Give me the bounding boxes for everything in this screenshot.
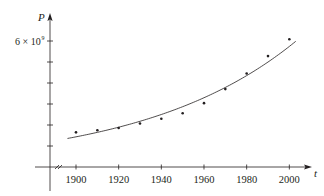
x-tick-label: 1960 (193, 174, 214, 185)
x-tick-label: 1900 (66, 174, 87, 185)
y-axis-arrow-icon (47, 13, 52, 21)
data-point (267, 55, 270, 58)
data-point (245, 72, 248, 75)
model-curve (67, 41, 295, 138)
data-point (181, 112, 184, 115)
x-tick-label: 1920 (108, 174, 129, 185)
exponential-curve (67, 41, 295, 138)
data-point (224, 88, 227, 91)
x-axis-label: t (314, 167, 318, 179)
axis-labels: 190019201940196019802000tP6 × 109 (15, 11, 318, 185)
y-tick-label: 6 × 10 (15, 36, 41, 47)
data-point (117, 127, 120, 130)
population-chart: 190019201940196019802000tP6 × 109 (0, 0, 324, 196)
data-point (75, 131, 78, 134)
y-axis-label: P (37, 11, 45, 23)
data-point (96, 129, 99, 132)
data-point (203, 102, 206, 105)
x-tick-label: 1940 (151, 174, 172, 185)
data-point (139, 122, 142, 125)
y-tick-label-exponent: 9 (42, 35, 45, 41)
x-tick-label: 1980 (236, 174, 257, 185)
data-point (288, 38, 291, 41)
x-tick-label: 2000 (279, 174, 300, 185)
data-point (160, 117, 163, 120)
axes (35, 13, 312, 191)
data-points (75, 38, 291, 134)
